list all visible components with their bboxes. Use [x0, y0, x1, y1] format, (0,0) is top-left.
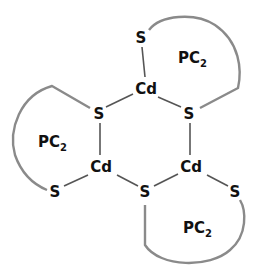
atom-s-bottom-mid: S — [140, 183, 151, 201]
atom-cd-left: Cd — [90, 158, 112, 176]
bond-cdtop-sleft — [106, 94, 133, 107]
atom-s-bottom-right: S — [230, 183, 241, 201]
bond-cdleft-sbm — [117, 175, 138, 186]
bond-cdleft-sbl — [64, 175, 88, 186]
atom-cd-right: Cd — [180, 158, 202, 176]
pc2-label-bottom-right: PC2 — [183, 219, 212, 239]
ligand-labels: PC2 PC2 PC2 — [38, 49, 212, 239]
atom-cd-top: Cd — [135, 80, 157, 98]
cd-pc2-complex-diagram: S Cd S S Cd Cd S S S PC2 PC2 PC2 — [0, 0, 254, 273]
atom-s-top: S — [136, 29, 147, 47]
bond-cdright-sbm — [154, 174, 178, 186]
atom-s-bottom-left: S — [50, 183, 61, 201]
diagram-svg: S Cd S S Cd Cd S S S PC2 PC2 PC2 — [0, 0, 254, 273]
bond-cdtop-sright — [158, 97, 181, 107]
atom-s-ring-right: S — [184, 105, 195, 123]
pc2-label-left: PC2 — [38, 133, 67, 153]
atoms: S Cd S S Cd Cd S S S — [50, 29, 241, 201]
pc2-label-top-right: PC2 — [178, 49, 207, 69]
bond-stop-cdtop — [142, 47, 145, 77]
bond-cdright-sbr — [207, 175, 228, 186]
atom-s-ring-left: S — [94, 105, 105, 123]
